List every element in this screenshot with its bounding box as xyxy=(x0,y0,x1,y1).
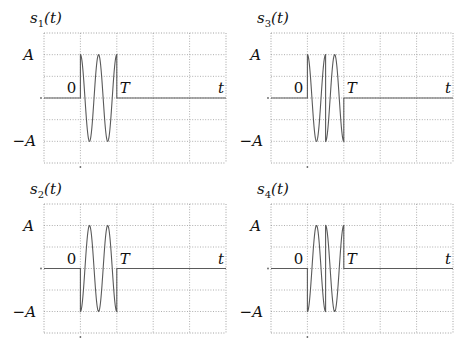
x-label-T: T xyxy=(120,250,131,268)
panel-s1: s1(t)A−A0Tt xyxy=(13,9,226,168)
x-origin-tick xyxy=(307,336,309,338)
y-tick-label-pos: A xyxy=(248,46,261,64)
panel-s4: s4(t)A−A0Tt xyxy=(240,180,453,338)
y-tick-label-pos: A xyxy=(21,46,34,64)
x-origin-tick xyxy=(80,166,82,168)
x-axis-label: t xyxy=(218,79,225,97)
signal-line xyxy=(44,55,226,142)
x-label-zero: 0 xyxy=(294,250,304,268)
x-label-zero: 0 xyxy=(67,250,77,268)
x-label-T: T xyxy=(120,79,131,97)
x-label-T: T xyxy=(347,250,358,268)
x-origin-tick xyxy=(80,336,82,338)
signal-line xyxy=(271,55,453,142)
figure: s1(t)A−A0Tts3(t)A−A0Tts2(t)A−A0Tts4(t)A−… xyxy=(0,0,468,353)
chart-title: s4(t) xyxy=(257,180,289,200)
y-origin-tick xyxy=(267,97,269,99)
chart-title: s3(t) xyxy=(257,9,289,29)
y-tick-label-pos: A xyxy=(21,217,34,235)
y-tick-label-neg: −A xyxy=(240,132,264,150)
x-label-zero: 0 xyxy=(294,79,304,97)
y-origin-tick xyxy=(40,268,42,270)
chart-title: s2(t) xyxy=(30,180,62,200)
y-tick-label-neg: −A xyxy=(13,132,37,150)
signal-line xyxy=(271,226,453,312)
x-axis-label: t xyxy=(445,79,452,97)
y-tick-label-neg: −A xyxy=(13,303,37,321)
y-origin-tick xyxy=(40,97,42,99)
x-label-zero: 0 xyxy=(67,79,77,97)
y-tick-label-pos: A xyxy=(248,217,261,235)
signal-line xyxy=(44,226,226,312)
panel-s3: s3(t)A−A0Tt xyxy=(240,9,453,168)
x-origin-tick xyxy=(307,166,309,168)
y-origin-tick xyxy=(267,268,269,270)
chart-title: s1(t) xyxy=(30,9,62,29)
x-label-T: T xyxy=(347,79,358,97)
x-axis-label: t xyxy=(445,250,452,268)
x-axis-label: t xyxy=(218,250,225,268)
panel-s2: s2(t)A−A0Tt xyxy=(13,180,226,338)
y-tick-label-neg: −A xyxy=(240,303,264,321)
